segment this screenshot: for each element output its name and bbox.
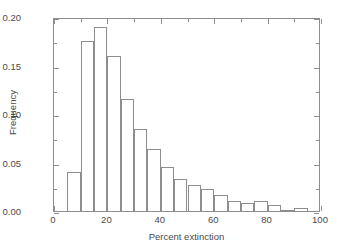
x-axis-tick <box>54 206 55 211</box>
x-axis-tick-label: 100 <box>302 215 338 225</box>
y-axis-tick-right <box>314 19 319 20</box>
histogram-bar <box>228 201 241 211</box>
histogram-bar <box>188 185 201 211</box>
x-axis-minor-tick-top <box>188 19 189 22</box>
histogram-bar <box>254 201 267 211</box>
x-axis-tick-label: 80 <box>249 215 285 225</box>
histogram-bar <box>294 208 307 211</box>
y-axis-minor-tick <box>54 140 57 141</box>
y-axis-minor-tick-right <box>316 189 319 190</box>
x-axis-minor-tick <box>81 208 82 211</box>
x-axis-tick-top <box>268 19 269 24</box>
x-axis-minor-tick-top <box>241 19 242 22</box>
x-axis-tick-top <box>107 19 108 24</box>
x-axis-tick-label: 20 <box>88 215 124 225</box>
histogram-bar <box>67 172 80 211</box>
histogram-bar <box>134 129 147 211</box>
y-axis-minor-tick-right <box>316 92 319 93</box>
x-axis-minor-tick <box>294 208 295 211</box>
y-axis-tick <box>54 68 59 69</box>
y-axis-tick <box>54 116 59 117</box>
x-axis-tick <box>161 206 162 211</box>
y-axis-tick-label: 0.00 <box>0 207 21 217</box>
x-axis-tick-label: 60 <box>195 215 231 225</box>
x-axis-minor-tick-top <box>294 19 295 22</box>
histogram-bar <box>241 203 254 211</box>
y-axis-tick-right <box>314 165 319 166</box>
x-axis-tick <box>268 206 269 211</box>
y-axis-minor-tick-right <box>316 140 319 141</box>
histogram-bar <box>94 27 107 211</box>
histogram-bar <box>147 149 160 211</box>
x-axis-minor-tick-top <box>134 19 135 22</box>
x-axis-tick-top <box>321 19 322 24</box>
x-axis-tick <box>321 206 322 211</box>
histogram-bar <box>81 41 94 211</box>
x-axis-tick <box>214 206 215 211</box>
y-axis-tick-label: 0.05 <box>0 159 21 169</box>
x-axis-minor-tick <box>188 208 189 211</box>
x-axis-tick-label: 0 <box>35 215 71 225</box>
histogram-bar <box>268 205 281 211</box>
y-axis-tick <box>54 165 59 166</box>
y-axis-tick-label: 0.15 <box>0 62 21 72</box>
x-axis-title: Percent extinction <box>53 231 320 242</box>
y-axis-tick-label: 0.10 <box>0 110 21 120</box>
y-axis-tick-label: 0.20 <box>0 13 21 23</box>
x-axis-minor-tick-top <box>81 19 82 22</box>
x-axis-minor-tick <box>241 208 242 211</box>
y-axis-minor-tick-right <box>316 43 319 44</box>
histogram-bar <box>214 195 227 211</box>
x-axis-tick-top <box>54 19 55 24</box>
histogram-bar <box>121 99 134 211</box>
y-axis-tick-right <box>314 116 319 117</box>
x-axis-tick-top <box>214 19 215 24</box>
y-axis-minor-tick <box>54 92 57 93</box>
bars-layer <box>54 19 319 211</box>
histogram-figure: Frequency 0.000.050.100.150.20 020406080… <box>0 0 346 252</box>
x-axis-tick-label: 40 <box>142 215 178 225</box>
x-axis-minor-tick <box>134 208 135 211</box>
y-axis-minor-tick <box>54 189 57 190</box>
y-axis-minor-tick <box>54 43 57 44</box>
histogram-bar <box>107 56 120 211</box>
x-axis-tick <box>107 206 108 211</box>
y-axis-tick-right <box>314 68 319 69</box>
histogram-bar <box>174 179 187 211</box>
histogram-bar <box>281 210 294 211</box>
plot-area <box>53 18 320 212</box>
histogram-bar <box>161 167 174 211</box>
histogram-bar <box>201 189 214 211</box>
x-axis-tick-top <box>161 19 162 24</box>
